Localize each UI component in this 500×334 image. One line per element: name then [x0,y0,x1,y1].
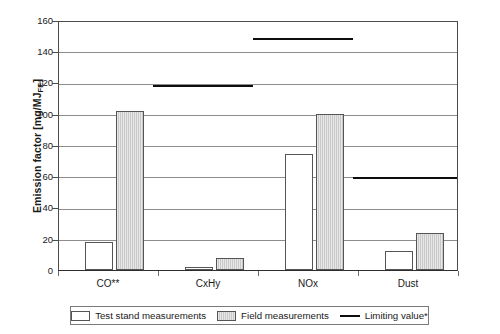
plot-area [58,21,458,271]
legend-item-test-stand: Test stand measurements [71,310,206,321]
x-tick-0 [58,271,59,276]
x-tick-3 [358,271,359,276]
x-tick-4 [458,271,459,276]
gridline-120 [59,84,457,85]
limit-line-dust [353,177,457,179]
x-tick-2 [258,271,259,276]
x-label-nox: NOx [258,278,358,289]
bar-field-dust [416,233,444,271]
chart-legend: Test stand measurements Field measuremen… [70,306,429,325]
gridline-140 [59,52,457,53]
limit-line-cxhy [153,85,253,87]
y-tick-label-0: 0 [17,266,53,276]
y-tick-label-100: 100 [17,110,53,120]
legend-swatch-limit-line-icon [340,315,360,317]
x-label-dust: Dust [358,278,458,289]
limit-line-nox [253,38,353,40]
legend-item-limiting-value: Limiting value* [340,310,428,321]
legend-swatch-field-icon [217,311,236,321]
legend-label-limiting-value: Limiting value* [365,310,428,321]
legend-item-field: Field measurements [217,310,329,321]
bar-field-nox [316,114,344,270]
y-tick-label-140: 140 [17,47,53,57]
bar-test-nox [285,154,313,270]
y-tick-label-80: 80 [17,141,53,151]
legend-label-test-stand: Test stand measurements [95,310,206,321]
bar-test-cxhy [185,267,213,270]
legend-swatch-test-stand-icon [71,311,90,321]
emission-factor-chart: Emission factor [mg/MJFE] 160 140 120 10… [0,0,500,334]
y-tick-label-20: 20 [17,235,53,245]
bar-field-co [116,111,144,270]
x-label-co: CO** [58,278,158,289]
y-tick-label-120: 120 [17,78,53,88]
y-tick-label-60: 60 [17,172,53,182]
bar-test-dust [385,251,413,270]
y-tick-label-40: 40 [17,203,53,213]
x-label-cxhy: CxHy [158,278,258,289]
x-tick-1 [158,271,159,276]
legend-label-field: Field measurements [241,310,329,321]
bar-test-co [85,242,113,270]
bar-field-cxhy [216,258,244,271]
y-tick-label-160: 160 [17,16,53,26]
